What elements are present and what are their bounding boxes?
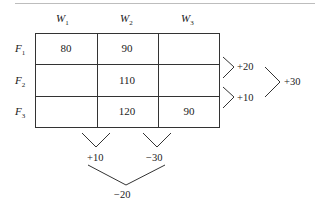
row-diff-f1-f2: +20 [237,61,253,72]
col-diff-combined: −20 [114,189,130,200]
row-diff-combined: +30 [284,76,300,87]
difference-brackets [0,0,315,215]
col-diff-w1-w2: +10 [87,152,103,163]
col-diff-w2-w3: −30 [146,152,162,163]
row-diff-f2-f3: +10 [237,92,253,103]
